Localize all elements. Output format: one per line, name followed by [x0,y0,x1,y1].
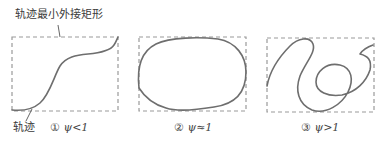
panel-2-condition: ψ≈1 [188,121,213,134]
panel-2 [138,37,246,111]
bounding-rect-label: 轨迹最小外接矩形 [15,9,103,21]
trajectory-curve-3 [267,39,373,111]
panel-1-condition: ψ<1 [64,121,89,134]
panel-1-index: ① [50,121,60,134]
trajectory-curve-2 [138,38,246,110]
panel-1 [12,25,118,121]
panel-2-index: ② [174,121,184,134]
bounding-rect-leader [58,25,60,37]
panel-3-index: ③ [301,121,311,134]
bounding-rect-1 [12,37,118,111]
bounding-rect-2 [139,37,246,111]
panel-2-caption: ② ψ≈1 [174,122,212,134]
trajectory-label: 轨迹 [13,122,35,134]
panel-1-caption: ① ψ<1 [50,122,88,134]
panel-3 [267,38,374,112]
bounding-rect-3 [267,38,374,112]
panel-3-condition: ψ>1 [315,121,340,134]
panel-3-caption: ③ ψ>1 [301,122,339,134]
trajectory-curve-1 [12,37,118,110]
